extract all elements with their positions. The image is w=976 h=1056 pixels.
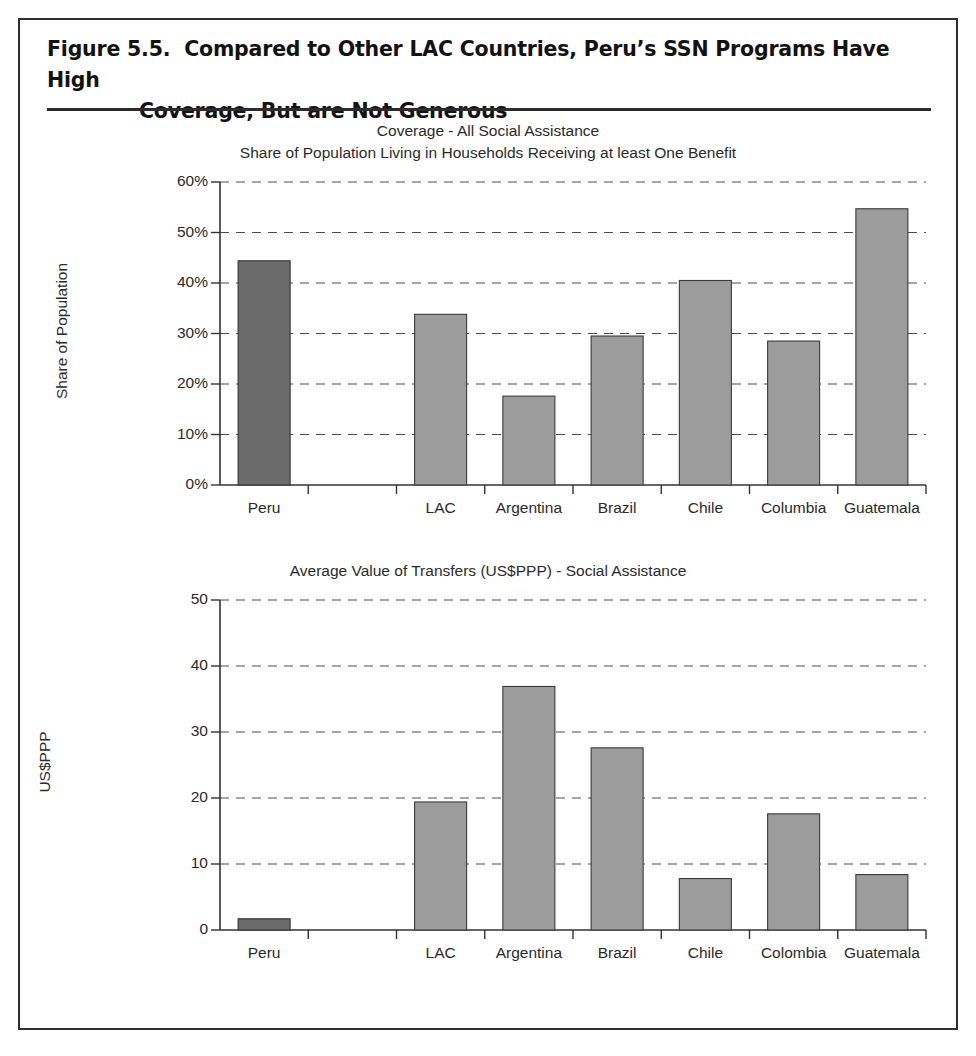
y-tick-label: 50 (146, 590, 208, 608)
bar-peru (238, 261, 290, 485)
figure-title-block: Figure 5.5. Compared to Other LAC Countr… (47, 34, 931, 127)
chart1-subtitle: Share of Population Living in Households… (20, 142, 956, 164)
bar-columbia (768, 341, 820, 485)
y-tick-label: 20 (146, 788, 208, 806)
bar-guatemala (856, 875, 908, 930)
x-category-label: Peru (200, 499, 328, 517)
chart2-heading: Average Value of Transfers (US$PPP) - So… (20, 560, 956, 582)
chart2-plot-area: US$PPP 01020304050PeruLACArgentinaBrazil… (20, 588, 956, 978)
chart1-y-axis-title: Share of Population (53, 262, 71, 398)
bar-colombia (768, 814, 820, 930)
coverage-chart-panel: Coverage - All Social Assistance Share o… (20, 120, 956, 550)
y-tick-label: 20% (146, 374, 208, 392)
y-tick-label: 0 (146, 920, 208, 938)
bar-brazil (591, 748, 643, 930)
x-category-label: Guatemala (818, 499, 946, 517)
y-tick-label: 60% (146, 172, 208, 190)
x-category-label: Guatemala (818, 944, 946, 962)
figure-frame: Figure 5.5. Compared to Other LAC Countr… (18, 18, 958, 1030)
figure-title: Figure 5.5. Compared to Other LAC Countr… (47, 34, 931, 127)
chart1-plot-area: Share of Population 0%10%20%30%40%50%60%… (20, 170, 956, 530)
y-tick-label: 30% (146, 324, 208, 342)
title-divider (47, 108, 931, 111)
y-tick-label: 10 (146, 854, 208, 872)
figure-title-line-1: Figure 5.5. Compared to Other LAC Countr… (47, 37, 896, 92)
chart1-title: Coverage - All Social Assistance (377, 122, 599, 139)
bar-chile (679, 280, 731, 485)
chart2-y-axis-title: US$PPP (36, 731, 54, 792)
bar-argentina (503, 686, 555, 930)
bar-guatemala (856, 209, 908, 485)
y-tick-label: 30 (146, 722, 208, 740)
bar-peru (238, 919, 290, 930)
chart2-title: Average Value of Transfers (US$PPP) - So… (290, 562, 687, 579)
y-tick-label: 40% (146, 273, 208, 291)
bar-argentina (503, 396, 555, 485)
y-tick-label: 10% (146, 425, 208, 443)
y-tick-label: 40 (146, 656, 208, 674)
bar-chile (679, 879, 731, 930)
bar-lac (415, 802, 467, 930)
chart1-heading: Coverage - All Social Assistance Share o… (20, 120, 956, 164)
bar-lac (415, 314, 467, 485)
y-tick-label: 50% (146, 223, 208, 241)
transfers-chart-panel: Average Value of Transfers (US$PPP) - So… (20, 560, 956, 1020)
y-tick-label: 0% (146, 475, 208, 493)
x-category-label: Peru (200, 944, 328, 962)
bar-brazil (591, 336, 643, 485)
